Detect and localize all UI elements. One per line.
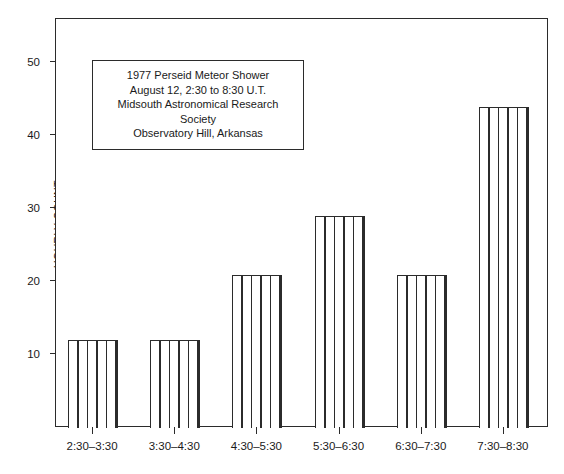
x-axis-tick: [92, 427, 93, 434]
bar: [232, 275, 282, 428]
y-axis-tick-label: 10: [6, 348, 40, 360]
caption-line-4: Society: [99, 112, 297, 127]
x-axis-tick: [256, 427, 257, 434]
x-axis-tick: [421, 427, 422, 434]
x-axis-tick-label: 7:30–8:30: [448, 440, 558, 452]
y-axis-tick-label: 50: [6, 56, 40, 68]
bar: [68, 340, 118, 428]
caption-box: 1977 Perseid Meteor Shower August 12, 2:…: [92, 60, 304, 150]
y-axis-tick-label: 30: [6, 202, 40, 214]
bar: [397, 275, 447, 428]
caption-line-5: Observatory Hill, Arkansas: [99, 126, 297, 141]
bar: [479, 107, 529, 428]
y-axis-tick-label: 20: [6, 275, 40, 287]
bar: [315, 216, 365, 428]
x-axis-tick: [503, 427, 504, 434]
caption-line-2: August 12, 2:30 to 8:30 U.T.: [99, 83, 297, 98]
bar: [150, 340, 200, 428]
meteor-shower-bar-chart: HOURLY COUNT 1020304050 2:30–3:303:30–4:…: [0, 0, 564, 474]
y-axis-tick-label: 40: [6, 129, 40, 141]
x-axis-tick: [339, 427, 340, 434]
x-axis-tick: [174, 427, 175, 434]
caption-line-1: 1977 Perseid Meteor Shower: [99, 68, 297, 83]
caption-line-3: Midsouth Astronomical Research: [99, 97, 297, 112]
